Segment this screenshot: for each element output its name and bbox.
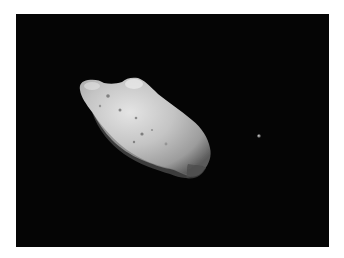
crater xyxy=(135,117,138,120)
crater xyxy=(119,109,122,112)
photo-frame xyxy=(16,14,329,247)
crater xyxy=(151,129,153,131)
crater xyxy=(99,105,101,107)
crater xyxy=(106,94,110,98)
crater xyxy=(133,141,135,143)
space-scene xyxy=(16,14,329,247)
moon xyxy=(257,134,261,138)
crater xyxy=(165,143,168,146)
crater xyxy=(140,132,143,135)
